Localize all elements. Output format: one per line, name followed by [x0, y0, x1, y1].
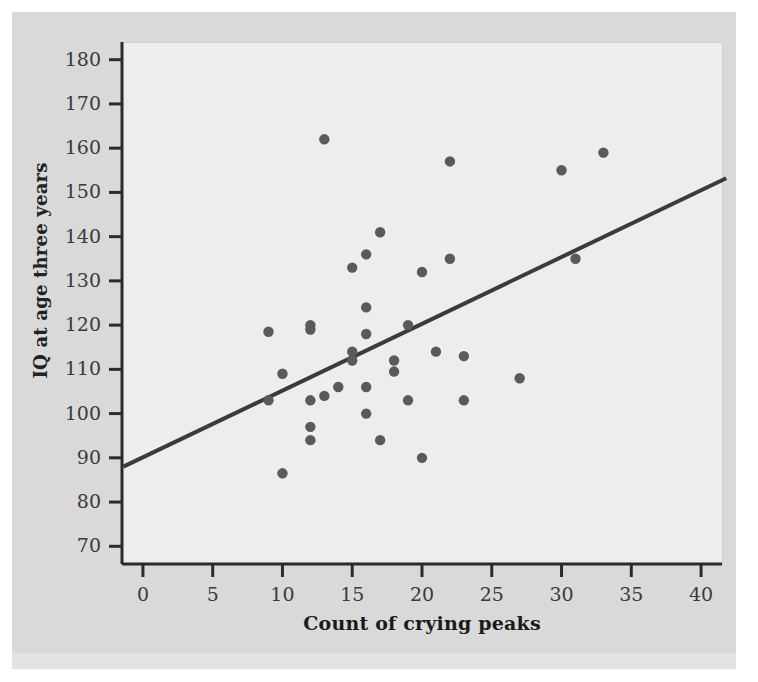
figure-footer-band	[12, 653, 736, 669]
y-axis-tick-label: 80	[41, 490, 101, 512]
x-axis-tick-label: 0	[121, 583, 165, 605]
x-axis-tick-label: 10	[260, 583, 304, 605]
x-axis-tick-label: 20	[400, 583, 444, 605]
y-axis-tick-label: 70	[41, 534, 101, 556]
x-axis-tick-label: 25	[470, 583, 514, 605]
x-axis-tick-label: 40	[679, 583, 723, 605]
y-axis-title: IQ at age three years	[30, 81, 51, 461]
x-axis-tick-label: 35	[609, 583, 653, 605]
chart-page: 708090100110120130140150160170180 051015…	[0, 0, 758, 682]
y-axis-tick-label: 180	[41, 48, 101, 70]
x-axis-tick-label: 30	[540, 583, 584, 605]
x-axis-tick-label: 5	[191, 583, 235, 605]
x-axis-title: Count of crying peaks	[122, 612, 722, 634]
plot-panel	[122, 42, 723, 565]
x-axis-tick-label: 15	[330, 583, 374, 605]
